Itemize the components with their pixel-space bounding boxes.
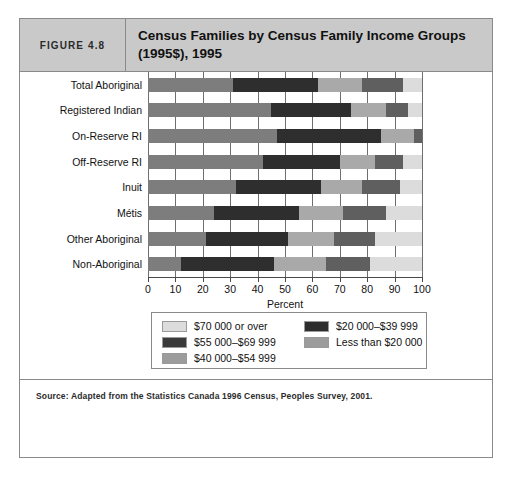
bar-segment bbox=[414, 129, 422, 143]
bar-row bbox=[148, 232, 422, 246]
bar-segment bbox=[381, 129, 414, 143]
source-divider bbox=[20, 379, 492, 380]
bar-segment bbox=[206, 232, 288, 246]
bar-segment bbox=[340, 155, 376, 169]
bar-row bbox=[148, 103, 422, 117]
bar-segment bbox=[271, 103, 350, 117]
x-tick-label: 70 bbox=[334, 283, 346, 295]
x-tick bbox=[367, 277, 368, 282]
legend-item: $70 000 or over bbox=[162, 318, 276, 334]
bar-segment bbox=[403, 78, 422, 92]
x-tick-label: 80 bbox=[361, 283, 373, 295]
bar-segment bbox=[148, 155, 263, 169]
x-tick bbox=[340, 277, 341, 282]
x-tick-label: 100 bbox=[413, 283, 431, 295]
bar-segment bbox=[386, 206, 422, 220]
stacked-bars bbox=[148, 72, 422, 277]
bar-segment bbox=[148, 206, 214, 220]
bar-segment bbox=[148, 180, 236, 194]
legend-swatch bbox=[162, 353, 187, 364]
x-tick bbox=[422, 277, 423, 282]
y-axis-label: Registered Indian bbox=[60, 104, 142, 116]
bar-segment bbox=[318, 78, 362, 92]
legend-column-left: $70 000 or over$55 000–$69 999$40 000–$5… bbox=[162, 318, 276, 366]
legend-swatch bbox=[304, 337, 329, 348]
x-tick bbox=[230, 277, 231, 282]
figure-header: FIGURE 4.8 Census Families by Census Fam… bbox=[20, 19, 492, 72]
bar-segment bbox=[386, 103, 408, 117]
bar-segment bbox=[214, 206, 299, 220]
legend-label: $40 000–$54 999 bbox=[194, 352, 276, 364]
figure-card: FIGURE 4.8 Census Families by Census Fam… bbox=[19, 18, 493, 458]
source-note: Source: Adapted from the Statistics Cana… bbox=[36, 391, 373, 401]
bar-segment bbox=[299, 206, 343, 220]
x-tick-label: 90 bbox=[389, 283, 401, 295]
bar-segment bbox=[181, 257, 274, 271]
legend-swatch bbox=[162, 337, 187, 348]
y-axis-label: Off-Reserve RI bbox=[72, 156, 142, 168]
x-tick-label: 60 bbox=[307, 283, 319, 295]
figure-number: FIGURE 4.8 bbox=[20, 19, 126, 71]
x-tick-label: 40 bbox=[252, 283, 264, 295]
chart-legend: $70 000 or over$55 000–$69 999$40 000–$5… bbox=[151, 312, 427, 369]
legend-label: $70 000 or over bbox=[194, 320, 268, 332]
legend-swatch bbox=[162, 321, 187, 332]
bar-segment bbox=[321, 180, 362, 194]
x-tick bbox=[148, 277, 149, 282]
bar-segment bbox=[233, 78, 318, 92]
bar-segment bbox=[408, 103, 422, 117]
x-axis-title: Percent bbox=[148, 298, 422, 310]
bar-segment bbox=[375, 155, 402, 169]
bar-segment bbox=[370, 257, 422, 271]
y-axis-labels: Total AboriginalRegistered IndianOn-Rese… bbox=[20, 72, 148, 277]
bar-segment bbox=[334, 232, 375, 246]
legend-label: $55 000–$69 999 bbox=[194, 336, 276, 348]
legend-swatch bbox=[304, 321, 329, 332]
y-axis-label: Non-Aboriginal bbox=[73, 258, 142, 270]
bar-row bbox=[148, 257, 422, 271]
x-tick bbox=[395, 277, 396, 282]
bar-segment bbox=[326, 257, 370, 271]
y-axis-label: Other Aboriginal bbox=[67, 233, 142, 245]
bar-row bbox=[148, 206, 422, 220]
bar-segment bbox=[288, 232, 335, 246]
bar-segment bbox=[148, 78, 233, 92]
legend-item: $55 000–$69 999 bbox=[162, 334, 276, 350]
chart-plot-area: Total AboriginalRegistered IndianOn-Rese… bbox=[20, 72, 492, 300]
legend-item: Less than $20 000 bbox=[304, 334, 422, 350]
x-tick-label: 0 bbox=[145, 283, 151, 295]
x-tick bbox=[175, 277, 176, 282]
bar-segment bbox=[400, 180, 422, 194]
bar-segment bbox=[277, 129, 381, 143]
bar-segment bbox=[403, 155, 422, 169]
x-tick bbox=[285, 277, 286, 282]
x-tick-label: 50 bbox=[279, 283, 291, 295]
bar-segment bbox=[351, 103, 387, 117]
bar-segment bbox=[148, 129, 277, 143]
gridline bbox=[422, 72, 423, 277]
x-tick-label: 20 bbox=[197, 283, 209, 295]
legend-label: Less than $20 000 bbox=[336, 336, 422, 348]
bar-segment bbox=[263, 155, 340, 169]
bar-segment bbox=[362, 78, 403, 92]
bar-segment bbox=[148, 232, 206, 246]
y-axis-label: Inuit bbox=[122, 181, 142, 193]
x-tick-label: 10 bbox=[170, 283, 182, 295]
bar-segment bbox=[148, 103, 271, 117]
legend-item: $40 000–$54 999 bbox=[162, 350, 276, 366]
x-tick-label: 30 bbox=[224, 283, 236, 295]
legend-item: $20 000–$39 999 bbox=[304, 318, 422, 334]
x-tick bbox=[203, 277, 204, 282]
y-axis-label: Total Aboriginal bbox=[71, 79, 142, 91]
bar-segment bbox=[343, 206, 387, 220]
y-axis-label: On-Reserve RI bbox=[72, 130, 142, 142]
bar-segment bbox=[236, 180, 321, 194]
figure-title: Census Families by Census Family Income … bbox=[126, 19, 492, 71]
bar-row bbox=[148, 180, 422, 194]
x-tick bbox=[258, 277, 259, 282]
bar-row bbox=[148, 129, 422, 143]
bar-segment bbox=[148, 257, 181, 271]
legend-label: $20 000–$39 999 bbox=[336, 320, 418, 332]
bar-row bbox=[148, 155, 422, 169]
bar-row bbox=[148, 78, 422, 92]
